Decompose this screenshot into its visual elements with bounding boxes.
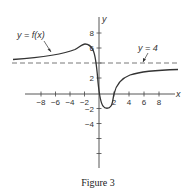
function-label: y = f(x) [16,30,45,40]
graph-figure: −8 −6 −4 −2 2 4 6 8 8 6 2 −2 −4 y x y = … [0,0,189,193]
x-tick-label: −4 [65,98,75,107]
x-tick-label: −6 [51,98,61,107]
y-tick-label: 2 [90,74,95,83]
arrowhead-icon [48,49,52,53]
x-tick-label: 8 [157,98,162,107]
y-tick-label: 8 [90,29,95,38]
y-tick-label: −2 [85,105,95,114]
x-tick-label: 6 [142,98,147,107]
x-tick-label: −8 [36,98,46,107]
figure-caption: Figure 3 [81,177,115,188]
asymptote-label: y = 4 [137,43,158,53]
x-axis-label: x [175,89,181,99]
y-axis-label: y [101,14,107,24]
y-tick-label: −4 [85,120,95,129]
x-tick-label: 4 [127,98,132,107]
